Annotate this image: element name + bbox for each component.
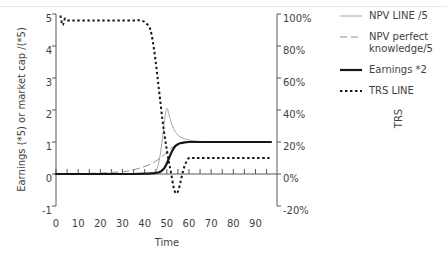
line-dotted-icon [340, 85, 362, 97]
legend-item[interactable]: Earnings *2 [340, 64, 447, 76]
legend-item[interactable]: NPV LINE /5 [340, 10, 447, 22]
line-solid-thick-icon [340, 64, 362, 76]
chart-legend: NPV LINE /5NPV perfect knowledge/5Earnin… [340, 10, 447, 106]
legend-item-label: Earnings *2 [369, 64, 427, 76]
chart-figure: Earnings (*5) or market cap /(*5) TRS Ti… [0, 0, 447, 263]
legend-item-label: TRS LINE [369, 85, 414, 97]
legend-item-label: NPV perfect knowledge/5 [369, 31, 447, 55]
legend-item[interactable]: NPV perfect knowledge/5 [340, 31, 447, 55]
legend-item-label: NPV LINE /5 [369, 10, 428, 22]
line-dashed-icon [340, 31, 362, 43]
legend-item[interactable]: TRS LINE [340, 85, 447, 97]
line-solid-thin-icon [340, 10, 362, 22]
